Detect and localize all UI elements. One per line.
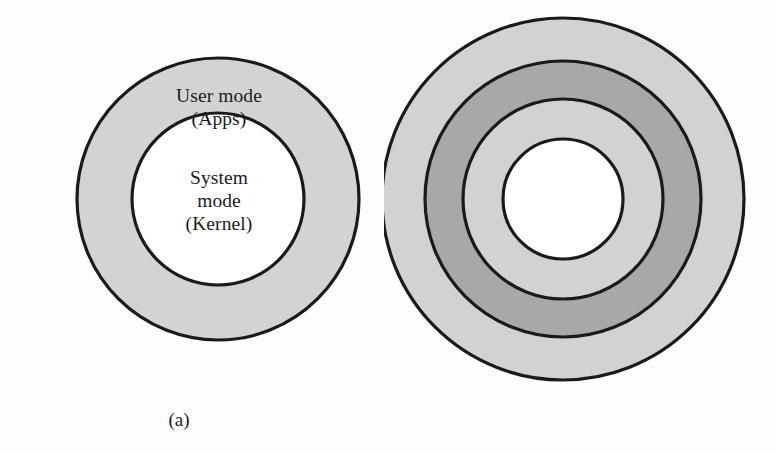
panel-b: User level (Apps) Ring 0 (Kernel) Ring 1… bbox=[384, 0, 776, 454]
label-system-mode-line1: System bbox=[190, 167, 248, 188]
label-system-mode: System mode (Kernel) bbox=[109, 166, 329, 235]
label-system-mode-line3: (Kernel) bbox=[109, 212, 329, 235]
panel-a: User mode (Apps) System mode (Kernel) (a… bbox=[0, 0, 392, 454]
label-user-mode-line1: User mode bbox=[176, 85, 262, 106]
panel-b-rings bbox=[384, 0, 776, 454]
label-user-mode: User mode (Apps) bbox=[89, 84, 349, 130]
figure-canvas: User mode (Apps) System mode (Kernel) (a… bbox=[0, 0, 776, 454]
ring-0 bbox=[503, 139, 623, 259]
label-system-mode-line2: mode bbox=[109, 189, 329, 212]
label-user-mode-line2: (Apps) bbox=[89, 107, 349, 130]
caption-panel-a: (a) bbox=[149, 409, 209, 431]
